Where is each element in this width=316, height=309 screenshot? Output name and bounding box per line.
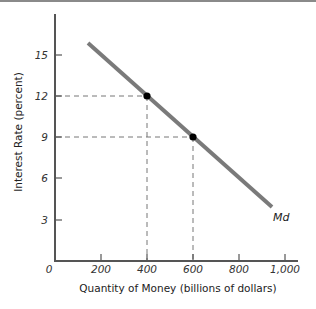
x-tick-label-200: 200	[91, 263, 111, 275]
y-tick-label-9: 9	[41, 131, 48, 143]
point-400-12	[143, 92, 150, 99]
x-tick-label-1000: 1,000	[270, 263, 300, 275]
x-axis-title: Quantity of Money (billions of dollars)	[79, 282, 276, 294]
y-tick-label-3: 3	[41, 214, 48, 226]
x-tick-label-400: 400	[137, 263, 157, 275]
y-axis-title: Interest Rate (percent)	[12, 72, 24, 192]
x-tick-label-800: 800	[229, 263, 249, 275]
y-ticks	[55, 55, 62, 220]
money-demand-chart: 15 12 9 6 3 0 200 400 600 800 1,000 Md Q…	[0, 0, 316, 309]
curve-label-md: Md	[273, 211, 290, 224]
x-ticks	[101, 254, 285, 261]
point-600-9	[189, 133, 196, 140]
x-tick-label-600: 600	[183, 263, 203, 275]
y-tick-label-6: 6	[41, 172, 48, 184]
y-tick-label-12: 12	[35, 90, 49, 102]
origin-label: 0	[46, 263, 53, 275]
y-tick-label-15: 15	[35, 49, 49, 61]
money-demand-curve	[88, 43, 272, 207]
